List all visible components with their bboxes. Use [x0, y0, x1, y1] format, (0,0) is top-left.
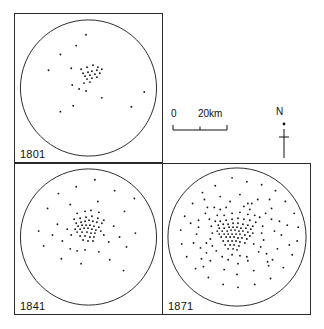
- settlement-dot: [80, 263, 82, 265]
- settlement-dot: [72, 105, 74, 107]
- settlement-dot: [227, 259, 229, 261]
- settlement-dot: [217, 224, 219, 226]
- settlement-dot: [98, 251, 100, 253]
- settlement-dot: [81, 224, 83, 226]
- dot-distribution-figure: 1801 1841 1871 0 20km N: [0, 0, 324, 329]
- settlement-dot: [278, 220, 280, 222]
- settlement-dot: [215, 250, 217, 252]
- settlement-dot: [231, 177, 233, 179]
- settlement-dot: [75, 45, 77, 47]
- settlement-dot: [218, 233, 220, 235]
- settlement-dot: [94, 232, 96, 234]
- settlement-dot: [223, 269, 225, 271]
- settlement-dot: [124, 210, 126, 212]
- settlement-dot: [234, 229, 236, 231]
- settlement-dot: [231, 218, 233, 220]
- settlement-dot: [134, 232, 136, 234]
- settlement-dot: [86, 78, 88, 80]
- settlement-dot: [193, 242, 195, 244]
- settlement-dot: [86, 66, 88, 68]
- settlement-dot: [241, 237, 243, 239]
- settlement-dot: [254, 214, 256, 216]
- settlement-dot: [230, 229, 232, 231]
- settlement-dot: [231, 233, 233, 235]
- settlement-dot: [101, 222, 103, 224]
- settlement-dot: [232, 222, 234, 224]
- settlement-dot: [87, 71, 89, 73]
- settlement-dot: [296, 240, 298, 242]
- settlement-dot: [38, 230, 40, 232]
- settlement-dot: [257, 199, 259, 201]
- settlement-dot: [239, 194, 241, 196]
- settlement-dot: [71, 84, 73, 86]
- dot-layer-1871: [180, 177, 299, 288]
- settlement-dot: [92, 240, 94, 242]
- settlement-dot: [251, 203, 253, 205]
- settlement-dot: [293, 212, 295, 214]
- settlement-dot: [228, 226, 230, 228]
- settlement-dot: [180, 229, 182, 231]
- settlement-dot: [198, 219, 200, 221]
- settlement-dot: [242, 223, 244, 225]
- settlement-dot: [89, 81, 91, 83]
- settlement-dot: [85, 216, 87, 218]
- settlement-dot: [219, 208, 221, 210]
- settlement-dot: [221, 256, 223, 258]
- settlement-dot: [96, 69, 98, 71]
- settlement-dot: [268, 265, 270, 267]
- settlement-dot: [203, 199, 205, 201]
- settlement-dot: [246, 181, 248, 183]
- settlement-dot: [69, 204, 71, 206]
- settlement-dot: [269, 199, 271, 201]
- settlement-dot: [126, 246, 128, 248]
- settlement-dot: [297, 226, 299, 228]
- settlement-dot: [250, 228, 252, 230]
- settlement-dot: [75, 222, 77, 224]
- settlement-dot: [237, 263, 239, 265]
- north-arrow: N: [268, 108, 300, 160]
- settlement-dot: [80, 68, 82, 70]
- study-area-circle-1801: [20, 20, 156, 156]
- settlement-dot: [52, 234, 54, 236]
- settlement-dot: [201, 258, 203, 260]
- settlement-dot: [73, 218, 75, 220]
- settlement-dot: [239, 233, 241, 235]
- settlement-dot: [96, 76, 98, 78]
- settlement-dot: [130, 106, 132, 108]
- settlement-dot: [56, 223, 58, 225]
- settlement-dot: [247, 224, 249, 226]
- settlement-dot: [94, 73, 96, 75]
- settlement-dot: [76, 250, 78, 252]
- settlement-dot: [80, 221, 82, 223]
- settlement-dot: [113, 225, 115, 227]
- map-panel-1871: 1871: [162, 163, 311, 315]
- settlement-dot: [97, 201, 99, 203]
- settlement-dot: [85, 224, 87, 226]
- settlement-dot: [84, 210, 86, 212]
- settlement-dot: [247, 260, 249, 262]
- settlement-dot: [247, 213, 249, 215]
- settlement-dot: [225, 206, 227, 208]
- settlement-dot: [243, 218, 245, 220]
- settlement-dot: [90, 232, 92, 234]
- map-panel-1841: 1841: [14, 163, 163, 315]
- settlement-dot: [254, 283, 256, 285]
- settlement-dot: [206, 206, 208, 208]
- settlement-dot: [226, 230, 228, 232]
- settlement-dot: [47, 207, 49, 209]
- settlement-dot: [200, 247, 202, 249]
- settlement-dot: [218, 227, 220, 229]
- settlement-dot: [223, 227, 225, 229]
- settlement-dot: [84, 235, 86, 237]
- settlement-dot: [238, 230, 240, 232]
- settlement-dot: [96, 221, 98, 223]
- settlement-dot: [76, 212, 78, 214]
- settlement-dot: [239, 241, 241, 243]
- settlement-dot: [203, 266, 205, 268]
- map-plot-1871: [163, 164, 310, 314]
- settlement-dot: [236, 226, 238, 228]
- settlement-dot: [59, 54, 61, 56]
- settlement-dot: [81, 231, 83, 233]
- settlement-dot: [236, 274, 238, 276]
- settlement-dot: [231, 240, 233, 242]
